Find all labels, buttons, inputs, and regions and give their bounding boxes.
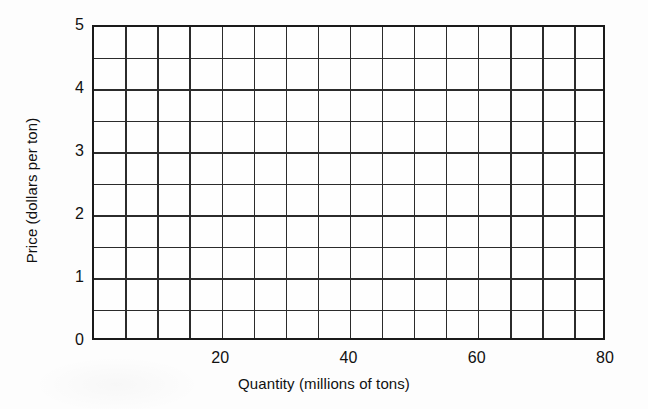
vertical-gridline — [414, 27, 415, 338]
horizontal-gridline — [94, 310, 603, 311]
x-axis-title: Quantity (millions of tons) — [0, 375, 648, 392]
y-axis-title: Price (dollars per ton) — [23, 66, 40, 316]
horizontal-gridline — [94, 215, 603, 216]
horizontal-gridline — [94, 278, 603, 279]
x-axis-tick-label: 40 — [339, 349, 357, 367]
y-axis-tick-label: 4 — [75, 79, 84, 97]
x-axis-tick-label: 20 — [211, 349, 229, 367]
horizontal-gridline — [94, 247, 603, 248]
vertical-gridline — [478, 27, 479, 338]
x-axis-tick-label: 80 — [596, 349, 614, 367]
vertical-gridline — [157, 27, 158, 338]
vertical-gridline — [125, 27, 126, 338]
vertical-gridline — [510, 27, 511, 338]
chart-page: Price (dollars per ton) 012345 20406080 … — [0, 0, 648, 409]
horizontal-gridline — [94, 152, 603, 153]
vertical-gridline — [350, 27, 351, 338]
y-axis-tick-label: 5 — [75, 16, 84, 34]
y-axis-tick-label: 3 — [75, 142, 84, 160]
y-axis-tick-label: 2 — [75, 205, 84, 223]
horizontal-gridline — [94, 89, 603, 90]
horizontal-gridline — [94, 58, 603, 59]
plot-area — [92, 25, 605, 340]
vertical-gridline — [318, 27, 319, 338]
vertical-gridline — [542, 27, 543, 338]
vertical-gridline — [189, 27, 190, 338]
horizontal-gridline — [94, 121, 603, 122]
vertical-gridline — [574, 27, 575, 338]
vertical-gridline — [254, 27, 255, 338]
vertical-gridline — [222, 27, 223, 338]
vertical-gridline — [286, 27, 287, 338]
gridlines — [94, 27, 603, 338]
x-axis-tick-label: 60 — [468, 349, 486, 367]
horizontal-gridline — [94, 184, 603, 185]
y-axis-tick-labels: 012345 — [58, 25, 84, 340]
y-axis-tick-label: 1 — [75, 268, 84, 286]
x-axis-tick-labels: 20406080 — [0, 349, 648, 371]
vertical-gridline — [446, 27, 447, 338]
y-axis-tick-label: 0 — [75, 331, 84, 349]
vertical-gridline — [382, 27, 383, 338]
